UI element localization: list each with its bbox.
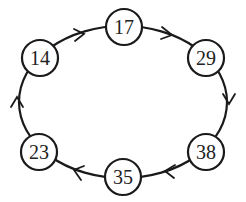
node-label: 38 xyxy=(196,141,216,163)
node-17: 17 xyxy=(106,9,142,45)
node-label: 14 xyxy=(30,47,50,69)
node-35: 35 xyxy=(105,159,141,195)
arrow-23-14-icon xyxy=(11,97,23,107)
node-14: 14 xyxy=(22,40,58,76)
node-23: 23 xyxy=(21,134,57,170)
circular-list-diagram: 17 29 38 35 23 14 xyxy=(0,0,246,202)
node-29: 29 xyxy=(188,40,224,76)
node-label: 35 xyxy=(113,166,133,188)
arrow-38-35-icon xyxy=(165,165,175,178)
node-label: 29 xyxy=(196,47,216,69)
node-label: 17 xyxy=(114,16,134,38)
node-38: 38 xyxy=(188,134,224,170)
arrow-29-38-icon xyxy=(223,94,235,104)
node-label: 23 xyxy=(29,141,49,163)
